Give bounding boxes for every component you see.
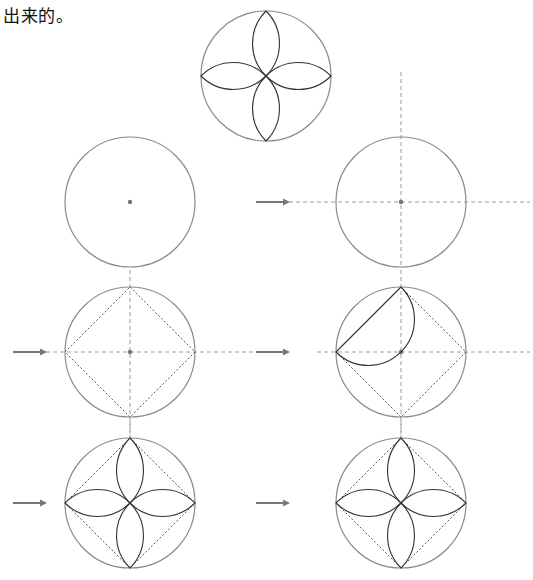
step-arrow-icon <box>13 500 47 507</box>
step-arrow-icon <box>13 349 47 356</box>
arrow-head <box>40 500 47 507</box>
semicircle-arc <box>336 287 414 365</box>
figure-step-5 <box>13 421 195 568</box>
arrow-head <box>40 349 47 356</box>
step-arrow-icon <box>256 500 290 507</box>
step-arrow-icon <box>256 349 290 356</box>
arrow-head <box>283 199 290 206</box>
step-arrow-icon <box>256 199 290 206</box>
figure-step-4 <box>256 270 530 434</box>
arrow-head <box>283 500 290 507</box>
center-point <box>399 200 403 204</box>
petal-4 <box>201 63 266 90</box>
petal-3 <box>253 76 280 141</box>
petal-1 <box>253 11 280 76</box>
arrow-head <box>283 349 290 356</box>
figure-step-1 <box>65 137 195 267</box>
chord-line <box>336 287 401 352</box>
construction-diagram <box>0 0 533 580</box>
center-point <box>128 350 132 354</box>
figure-result <box>201 11 331 141</box>
petal-2 <box>266 63 331 90</box>
figure-step-6 <box>256 421 466 568</box>
figure-step-3 <box>13 270 260 434</box>
center-point <box>128 200 132 204</box>
figure-step-2 <box>256 72 530 268</box>
